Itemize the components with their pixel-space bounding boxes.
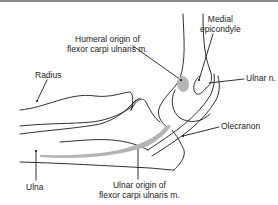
label-humeral-origin: Humeral origin of flexor carpi ulnaris m… bbox=[67, 34, 148, 54]
label-medial-epicondyle: Medial epicondyle bbox=[200, 14, 241, 34]
radius-head bbox=[131, 99, 160, 122]
medial-epicondyle-contour bbox=[194, 76, 206, 94]
label-ulnar-nerve: Ulnar n. bbox=[246, 73, 276, 83]
ulnar-origin-patch bbox=[40, 125, 171, 158]
trochlea-curve bbox=[172, 90, 210, 121]
label-olecranon: Olecranon bbox=[221, 121, 260, 131]
label-ulnar-origin: Ulnar origin of flexor carpi ulnaris m. bbox=[99, 180, 180, 200]
radius-lower-outline-2 bbox=[20, 100, 136, 134]
humerus-outline-left bbox=[158, 14, 184, 128]
label-ulna: Ulna bbox=[26, 182, 43, 192]
radius-lower-outline bbox=[20, 106, 133, 126]
leader-radius bbox=[37, 80, 47, 101]
ulna-lower-outline bbox=[20, 162, 174, 170]
label-radius: Radius bbox=[35, 70, 61, 80]
